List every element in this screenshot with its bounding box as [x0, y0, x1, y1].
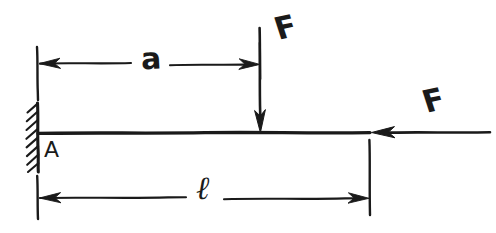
diagram-canvas: a ℓ A F F	[0, 0, 496, 233]
dimension-l-extension-left	[37, 176, 38, 219]
dimension-l-extension-right	[369, 140, 370, 215]
dimension-a-extension-left	[37, 47, 38, 100]
dimension-a-label: a	[140, 43, 162, 74]
horizontal-force-arrow	[372, 127, 491, 138]
support-point-label: A	[44, 139, 59, 161]
dimension-l-line-right	[224, 198, 363, 199]
beam	[38, 132, 370, 133]
dimension-a-line-right	[170, 64, 250, 65]
support-hatching	[26, 104, 38, 172]
dimension-l-label: ℓ	[196, 171, 209, 204]
fixed-support-wall	[26, 103, 38, 172]
dimension-l-line-left	[40, 197, 186, 198]
beam-diagram-svg	[0, 0, 496, 233]
